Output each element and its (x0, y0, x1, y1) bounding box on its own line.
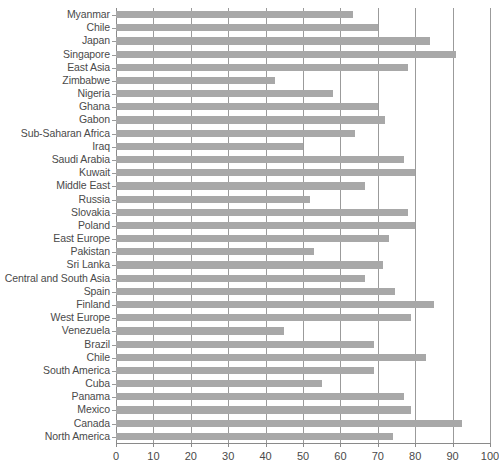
bar-row: Sub-Saharan Africa (116, 127, 490, 140)
x-tick-label: 50 (297, 449, 309, 463)
x-tickmark-40 (266, 443, 267, 447)
bar (116, 406, 411, 413)
category-label: Saudi Arabia (0, 153, 110, 166)
category-label: Finland (0, 298, 110, 311)
bar-row: Zimbabwe (116, 74, 490, 87)
bar (116, 169, 415, 176)
bar-row: Russia (116, 193, 490, 206)
bar-row: Saudi Arabia (116, 153, 490, 166)
x-tickmark-20 (191, 443, 192, 447)
bar-rows: MyanmarChileJapanSingaporeEast AsiaZimba… (116, 8, 490, 443)
bar (116, 261, 383, 268)
bar-row: North America (116, 430, 490, 443)
x-axis-tick-labels: 0102030405060708090100 (0, 449, 496, 469)
bar (116, 393, 404, 400)
bar (116, 209, 408, 216)
category-label: Middle East (0, 179, 110, 192)
bar-row: Central and South Asia (116, 272, 490, 285)
category-label: Chile (0, 21, 110, 34)
plot-area: MyanmarChileJapanSingaporeEast AsiaZimba… (116, 8, 490, 443)
bar-row: Middle East (116, 179, 490, 192)
bar-row: Chile (116, 21, 490, 34)
category-label: Central and South Asia (0, 272, 110, 285)
x-tickmark-70 (378, 443, 379, 447)
x-tick-label: 0 (113, 449, 119, 463)
bar (116, 24, 378, 31)
bar-row: East Asia (116, 61, 490, 74)
x-tick-label: 90 (446, 449, 458, 463)
bar-row: Venezuela (116, 324, 490, 337)
bar (116, 37, 430, 44)
bar-row: Kuwait (116, 166, 490, 179)
category-label: Ghana (0, 100, 110, 113)
category-label: Chile (0, 351, 110, 364)
category-label: Nigeria (0, 87, 110, 100)
x-tick-label: 80 (409, 449, 421, 463)
bar-row: Slovakia (116, 206, 490, 219)
bar-row: Chile (116, 351, 490, 364)
bar-row: Ghana (116, 100, 490, 113)
gridline-100 (490, 8, 491, 443)
bar (116, 156, 404, 163)
x-tickmark-30 (228, 443, 229, 447)
x-tickmark-10 (153, 443, 154, 447)
bar-row: Pakistan (116, 245, 490, 258)
category-label: Sub-Saharan Africa (0, 127, 110, 140)
bar (116, 235, 389, 242)
bar (116, 288, 395, 295)
bar (116, 51, 456, 58)
bar (116, 103, 378, 110)
bar (116, 420, 462, 427)
bar-row: South America (116, 364, 490, 377)
bar-row: Finland (116, 298, 490, 311)
x-tickmark-90 (453, 443, 454, 447)
category-label: Zimbabwe (0, 74, 110, 87)
bar-row: Poland (116, 219, 490, 232)
category-label: North America (0, 430, 110, 443)
category-label: Venezuela (0, 324, 110, 337)
x-tick-label: 60 (334, 449, 346, 463)
category-label: East Asia (0, 61, 110, 74)
x-tickmark-50 (303, 443, 304, 447)
bar (116, 354, 426, 361)
bar-row: Spain (116, 285, 490, 298)
category-label: Iraq (0, 140, 110, 153)
category-label: Kuwait (0, 166, 110, 179)
category-label: West Europe (0, 311, 110, 324)
x-tickmark-100 (490, 443, 491, 447)
category-label: Cuba (0, 377, 110, 390)
bar-row: Nigeria (116, 87, 490, 100)
bar-row: Sri Lanka (116, 258, 490, 271)
bar-row: Japan (116, 34, 490, 47)
bar (116, 77, 275, 84)
category-label: Brazil (0, 338, 110, 351)
category-label: Canada (0, 417, 110, 430)
bar (116, 11, 353, 18)
bar (116, 301, 434, 308)
bar (116, 196, 310, 203)
category-label: East Europe (0, 232, 110, 245)
x-tickmark-0 (116, 443, 117, 447)
bar (116, 380, 322, 387)
bar-row: Singapore (116, 48, 490, 61)
bar (116, 275, 365, 282)
x-tick-label: 30 (222, 449, 234, 463)
bar (116, 143, 303, 150)
category-label: Mexico (0, 403, 110, 416)
x-tick-label: 70 (372, 449, 384, 463)
category-label: Pakistan (0, 245, 110, 258)
bar (116, 116, 385, 123)
bar-row: Brazil (116, 338, 490, 351)
bar (116, 433, 393, 440)
bar (116, 327, 284, 334)
category-label: Gabon (0, 113, 110, 126)
category-label: South America (0, 364, 110, 377)
bar (116, 341, 374, 348)
x-tick-label: 10 (147, 449, 159, 463)
x-tickmark-80 (415, 443, 416, 447)
x-tickmark-60 (340, 443, 341, 447)
category-label: Japan (0, 34, 110, 47)
bar-row: Mexico (116, 403, 490, 416)
bar-row: Gabon (116, 113, 490, 126)
